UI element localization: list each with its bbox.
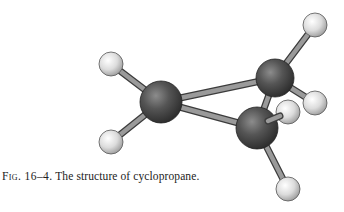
hydrogen-atom-h6 [276,177,300,201]
carbon-atom-c1 [140,81,182,123]
hydrogen-atom-h2 [99,130,123,154]
figure-caption-text: The structure of cyclopropane. [55,170,199,182]
hydrogen-atom-h5 [276,100,300,124]
hydrogen-atom-h4 [303,91,327,115]
figure-caption: Fig. 16–4. The structure of cyclopropane… [2,170,199,182]
carbon-atom-c2 [256,59,294,97]
figure-label: Fig. 16–4. [2,170,52,182]
hydrogen-atom-h3 [303,13,327,37]
hydrogen-atom-h1 [99,52,123,76]
figure: Fig. 16–4. The structure of cyclopropane… [0,0,344,212]
carbon-atom-c3 [236,107,278,149]
